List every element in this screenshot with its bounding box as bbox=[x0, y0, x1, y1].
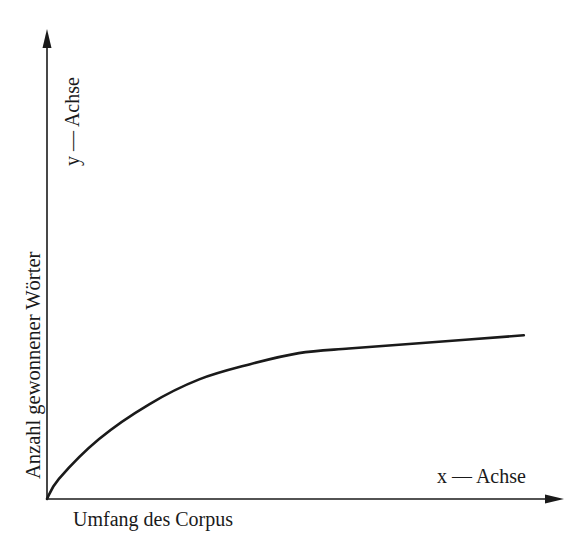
x-axis-arrow-icon bbox=[545, 495, 564, 504]
x-axis-title-label: Umfang des Corpus bbox=[73, 509, 233, 529]
y-axis-name-label: y — Achse bbox=[62, 77, 82, 166]
y-axis-arrow-icon bbox=[43, 29, 52, 48]
y-axis-title-label: Anzahl gewonnener Wörter bbox=[23, 252, 44, 479]
x-axis-name-label: x — Achse bbox=[437, 466, 526, 486]
